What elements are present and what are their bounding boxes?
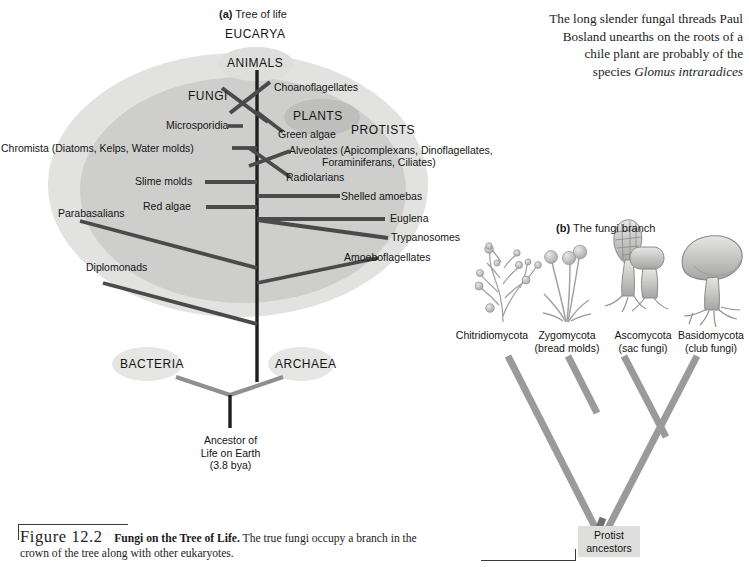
- label-microsporidia: Microsporidia: [166, 119, 228, 131]
- label-protists: PROTISTS: [351, 123, 415, 137]
- label-euglena: Euglena: [390, 212, 429, 224]
- label-shelled-amoebas: Shelled amoebas: [341, 190, 422, 202]
- label-plants: PLANTS: [293, 109, 343, 123]
- fungi-taxon-common: (club fungi): [685, 342, 737, 354]
- fungi-taxon-ascomycota: Ascomycota (sac fungi): [605, 329, 681, 354]
- root-label: Ancestor of Life on Earth (3.8 bya): [178, 434, 283, 472]
- fungi-taxon-chitridiomycota: Chitridiomycota: [449, 329, 535, 342]
- panel-a-label: (a): [219, 8, 232, 20]
- caption-rule: [18, 524, 128, 525]
- label-animals: ANIMALS: [227, 56, 283, 70]
- fungi-taxon-common: (sac fungi): [618, 342, 667, 354]
- fungi-cladogram: [508, 356, 697, 530]
- label-archaea: ARCHAEA: [275, 357, 337, 371]
- fungi-taxon-name: Basidomycota: [678, 329, 744, 341]
- blurb-line-2: Bosland unearths on the roots of a: [563, 29, 743, 44]
- panel-a-title: Tree of life: [235, 8, 287, 20]
- sac-fungi-roots: [605, 296, 668, 312]
- blurb-line-1: The long slender fungal threads Paul: [549, 11, 743, 26]
- club-fungi-illustration: [682, 236, 742, 327]
- label-trypanosomes: Trypanosomes: [391, 231, 460, 243]
- fungi-taxon-name: Chitridiomycota: [456, 329, 528, 341]
- label-diplomonads: Diplomonads: [86, 261, 147, 273]
- blurb-line-3: chile plant are probably of the: [584, 46, 743, 61]
- fungi-taxon-name: Ascomycota: [614, 329, 671, 341]
- panel-b-header: (b) The fungi branch: [556, 222, 655, 234]
- figure-root: The long slender fungal threads Paul Bos…: [0, 0, 749, 567]
- caption-figure-number: Figure 12.2: [20, 527, 103, 546]
- label-red-algae: Red algae: [143, 200, 191, 212]
- label-green-algae: Green algae: [278, 128, 336, 140]
- label-alveolates-cont: Foraminiferans, Ciliates): [322, 156, 436, 168]
- label-alveolates: Alveolates (Apicomplexans, Dinoflagellat…: [289, 144, 493, 156]
- bottom-rule: [481, 560, 576, 561]
- blurb-species-name: Glomus intraradices: [634, 64, 743, 79]
- panel-b-label: (b): [556, 222, 570, 234]
- sidebar-blurb: The long slender fungal threads Paul Bos…: [435, 10, 743, 80]
- fungi-taxon-common: (bread molds): [535, 342, 600, 354]
- tree-of-life-graphic: [0, 0, 749, 567]
- caption-text-block: Figure 12.2 Fungi on the Tree of Life. T…: [20, 530, 440, 561]
- root-label-line-1: Ancestor of: [204, 434, 257, 446]
- fungi-taxon-name: Zygomycota: [538, 329, 595, 341]
- protist-ancestors-box: Protist ancestors: [578, 526, 640, 557]
- protist-root-line-1: Protist: [594, 529, 624, 541]
- label-bacteria: BACTERIA: [120, 357, 184, 371]
- label-chromista: Chromista (Diatoms, Kelps, Water molds): [1, 142, 194, 154]
- label-parabasalians: Parabasalians: [58, 207, 125, 219]
- caption-title: Fungi on the Tree of Life.: [114, 532, 240, 545]
- label-eucarya: EUCARYA: [225, 27, 285, 41]
- root-label-line-3: (3.8 bya): [210, 459, 251, 471]
- bottom-tick: [575, 549, 576, 561]
- blurb-line-4: species: [593, 64, 634, 79]
- label-slime-molds: Slime molds: [135, 175, 192, 187]
- fungi-taxon-zygomycota: Zygomycota (bread molds): [525, 329, 609, 354]
- label-fungi: FUNGI: [188, 89, 228, 103]
- root-label-line-2: Life on Earth: [201, 447, 261, 459]
- panel-a-header: (a) Tree of life: [219, 8, 287, 20]
- bread-mold-illustration: [543, 258, 591, 322]
- label-radiolarians: Radiolarians: [286, 171, 344, 183]
- label-choanoflagellates: Choanoflagellates: [274, 81, 358, 93]
- fungi-taxon-basidomycota: Basidomycota (club fungi): [673, 329, 749, 354]
- clade-basidomycota: [607, 356, 697, 530]
- root-fork-bacteria: [176, 377, 230, 395]
- clade-zygomycota: [568, 356, 597, 413]
- label-amoeboflagellates: Amoeboflagellates: [344, 251, 430, 263]
- panel-b-title: The fungi branch: [573, 222, 656, 234]
- bread-mold-sporangia: [545, 245, 587, 264]
- protist-root-line-2: ancestors: [586, 542, 632, 554]
